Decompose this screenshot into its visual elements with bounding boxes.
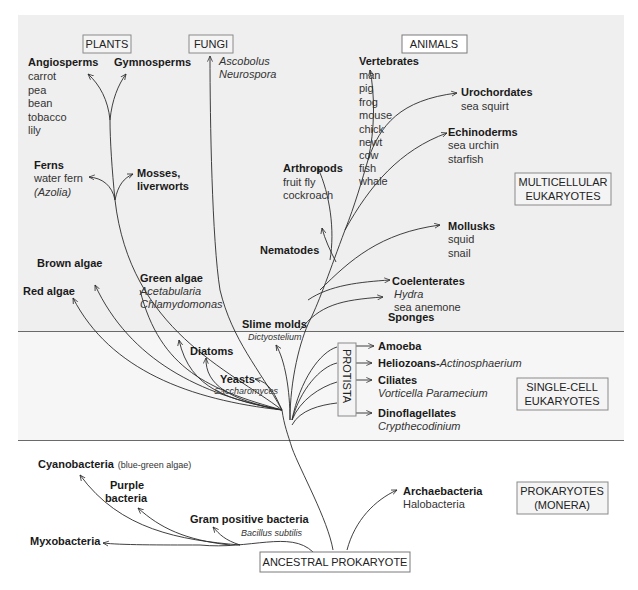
example-water-fern: water fern	[33, 172, 83, 184]
branch-gymnosperms	[110, 74, 126, 120]
example-cow: cow	[359, 149, 379, 161]
label-brown-algae: Brown algae	[37, 257, 102, 269]
box-ancestral-prokaryote: ANCESTRAL PROKARYOTE	[260, 552, 410, 572]
label-myxobacteria: Myxobacteria	[30, 535, 101, 547]
heliozoans-title: Heliozoans-	[378, 357, 440, 369]
label-single-cell-1: SINGLE-CELL	[526, 381, 598, 393]
label-diatoms: Diatoms	[190, 345, 233, 357]
label-red-algae: Red algae	[23, 285, 75, 297]
branch-arthropods	[318, 168, 332, 260]
branch-mosses	[115, 174, 133, 200]
label-heliozoans: Heliozoans-Actinosphaerium	[378, 357, 522, 369]
branch-protista-2	[292, 363, 337, 420]
example-halobacteria: Halobacteria	[403, 498, 466, 510]
box-plants: PLANTS	[83, 35, 131, 53]
box-animals: ANIMALS	[402, 35, 467, 53]
label-ciliates: Ciliates	[378, 374, 417, 386]
branch-archaebacteria	[347, 490, 397, 550]
branch-ferns	[89, 177, 115, 200]
example-bean: bean	[28, 97, 52, 109]
example-dictyostelium: Dictyostelium	[248, 332, 302, 342]
label-prokaryotes-1: PROKARYOTES	[520, 485, 604, 497]
label-prokaryotes-2: (MONERA)	[534, 499, 590, 511]
label-purple-bacteria: bacteria	[105, 492, 148, 504]
example-sea-urchin: sea urchin	[448, 139, 499, 151]
branch-angiosperms	[88, 74, 110, 120]
example-acetabularia: Acetabularia	[139, 285, 201, 297]
label-arthropods: Arthropods	[283, 162, 343, 174]
label-vertebrates: Vertebrates	[359, 55, 419, 67]
label-fungi: FUNGI	[194, 38, 228, 50]
cyanobacteria-title: Cyanobacteria	[38, 458, 115, 470]
example-hydra: Hydra	[394, 288, 423, 300]
example-tobacco: tobacco	[28, 111, 67, 123]
label-amoeba: Amoeba	[378, 340, 422, 352]
example-chlamydomonas: Chlamydomonas	[140, 298, 223, 310]
example-crypthecodinium: Crypthecodinium	[378, 420, 461, 432]
cyanobacteria-note: (blue-green algae)	[118, 460, 192, 470]
label-animals: ANIMALS	[410, 38, 458, 50]
example-bacillus-subtilis: Bacillus subtilis	[241, 528, 303, 538]
example-vorticella-paramecium: Vorticella Paramecium	[378, 387, 488, 399]
label-angiosperms: Angiosperms	[28, 56, 98, 68]
example-whale: whale	[358, 175, 388, 187]
label-echinoderms: Echinoderms	[448, 126, 518, 138]
example-neurospora: Neurospora	[219, 68, 276, 80]
tree-of-life-diagram: PLANTS FUNGI ANIMALS MULTICELLULAR EUKAR…	[0, 0, 638, 590]
example-mouse: mouse	[359, 109, 392, 121]
tree-svg: PLANTS FUNGI ANIMALS MULTICELLULAR EUKAR…	[0, 0, 638, 590]
example-saccharomyces: Saccharomyces	[214, 386, 279, 396]
label-dinoflagellates: Dinoflagellates	[378, 407, 456, 419]
box-protista: PROTISTA	[338, 343, 356, 416]
label-plants: PLANTS	[86, 38, 129, 50]
example-fruit-fly: fruit fly	[283, 176, 316, 188]
branch-sponges	[300, 297, 383, 330]
label-yeasts: Yeasts	[220, 373, 255, 385]
label-sponges: Sponges	[388, 311, 434, 323]
branch-cyanobacteria	[80, 475, 240, 545]
label-protista: PROTISTA	[341, 349, 353, 404]
branch-protista-4	[292, 403, 337, 425]
label-ferns: Ferns	[34, 159, 64, 171]
branch-myxobacteria	[103, 541, 313, 552]
box-single-cell: SINGLE-CELL EUKARYOTES	[517, 378, 608, 410]
example-carrot: carrot	[28, 70, 56, 82]
example-sea-squirt: sea squirt	[461, 100, 509, 112]
label-gymnosperms: Gymnosperms	[114, 56, 191, 68]
label-cyanobacteria: Cyanobacteria(blue-green algae)	[38, 458, 191, 470]
label-slime-molds: Slime molds	[242, 318, 307, 330]
example-newt: newt	[359, 136, 382, 148]
branch-protista-1	[292, 347, 337, 420]
label-mollusks: Mollusks	[448, 220, 495, 232]
label-purple: Purple	[110, 479, 144, 491]
example-snail: snail	[448, 247, 471, 259]
label-liverworts: liverworts	[137, 180, 189, 192]
example-azolia: (Azolia)	[34, 186, 72, 198]
example-fish: fish	[359, 162, 376, 174]
label-ancestral-prokaryote: ANCESTRAL PROKARYOTE	[263, 556, 408, 568]
example-chick: chick	[359, 123, 385, 135]
box-multicellular: MULTICELLULAR EUKARYOTES	[515, 173, 611, 205]
label-green-algae: Green algae	[140, 272, 203, 284]
example-ascobolus: Ascobolus	[218, 55, 270, 67]
label-archaebacteria: Archaebacteria	[403, 485, 483, 497]
branch-nematodes	[322, 228, 336, 262]
example-actinosphaerium: Actinosphaerium	[439, 357, 522, 369]
example-pea: pea	[28, 84, 47, 96]
example-man: man	[359, 69, 380, 81]
example-squid: squid	[448, 233, 474, 245]
box-fungi: FUNGI	[189, 35, 233, 53]
example-cockroach: cockroach	[283, 189, 333, 201]
label-multicellular-2: EUKARYOTES	[526, 190, 601, 202]
label-gram-positive-bacteria: Gram positive bacteria	[190, 513, 309, 525]
example-lily: lily	[28, 124, 41, 136]
label-single-cell-2: EUKARYOTES	[525, 395, 600, 407]
example-frog: frog	[359, 96, 378, 108]
plants-trunk	[110, 120, 282, 410]
label-multicellular-1: MULTICELLULAR	[518, 176, 607, 188]
label-coelenterates: Coelenterates	[392, 275, 465, 287]
example-starfish: starfish	[448, 153, 483, 165]
box-prokaryotes: PROKARYOTES (MONERA)	[517, 482, 608, 514]
example-pig: pig	[359, 82, 374, 94]
label-urochordates: Urochordates	[461, 86, 533, 98]
